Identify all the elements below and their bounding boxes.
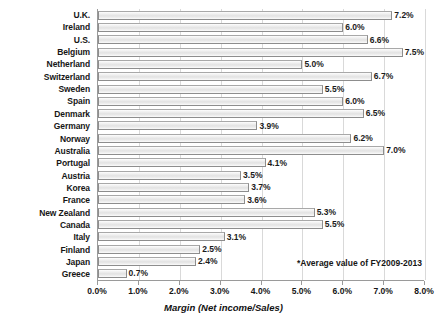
- bar-value-label: 6.0%: [345, 97, 364, 106]
- category-label: Canada: [0, 219, 94, 231]
- bar-series: 7.2%6.0%6.6%7.5%5.0%6.7%5.5%6.0%6.5%3.9%…: [98, 9, 424, 280]
- bar: [98, 48, 403, 57]
- gridline: [425, 9, 426, 280]
- x-tick-label: 2.0%: [169, 287, 188, 296]
- bar-value-label: 6.5%: [366, 109, 385, 118]
- category-label: Japan: [0, 256, 94, 268]
- category-label: Netherland: [0, 58, 94, 70]
- bar-value-label: 6.7%: [374, 72, 393, 81]
- bar: [98, 121, 257, 130]
- bar-value-label: 4.1%: [268, 159, 287, 168]
- bar-value-label: 3.6%: [247, 196, 266, 205]
- x-tick-mark: [97, 281, 98, 285]
- bar-row: 6.0%: [98, 95, 424, 107]
- bar: [98, 134, 351, 143]
- bar-row: 7.2%: [98, 9, 424, 21]
- bar: [98, 60, 302, 69]
- category-label: Denmark: [0, 108, 94, 120]
- x-tick-label: 4.0%: [251, 287, 270, 296]
- bar-row: 7.0%: [98, 144, 424, 156]
- bar: [98, 195, 245, 204]
- category-label: Switzerland: [0, 71, 94, 83]
- bar: [98, 269, 127, 278]
- category-label: U.S.: [0, 34, 94, 46]
- x-tick-label: 5.0%: [292, 287, 311, 296]
- x-axis-tick-labels: 0.0%1.0%2.0%3.0%4.0%5.0%6.0%7.0%8.0%: [97, 287, 424, 301]
- category-label: U.K.: [0, 9, 94, 21]
- category-label: Ireland: [0, 21, 94, 33]
- x-tick-mark: [220, 281, 221, 285]
- x-tick-mark: [261, 281, 262, 285]
- bar: [98, 220, 323, 229]
- x-tick-mark: [138, 281, 139, 285]
- bar-value-label: 6.6%: [370, 36, 389, 45]
- x-tick-mark: [424, 281, 425, 285]
- bar-value-label: 5.0%: [304, 60, 323, 69]
- category-label: Sweden: [0, 83, 94, 95]
- bar-row: 6.0%: [98, 21, 424, 33]
- x-tick-label: 8.0%: [414, 287, 433, 296]
- category-label: Italy: [0, 231, 94, 243]
- bar-value-label: 6.0%: [345, 23, 364, 32]
- x-axis-title: Margin (Net income/Sales): [0, 303, 447, 313]
- x-tick-label: 6.0%: [333, 287, 352, 296]
- category-label: Norway: [0, 133, 94, 145]
- bar: [98, 171, 241, 180]
- bar: [98, 35, 368, 44]
- bar-row: 7.5%: [98, 46, 424, 58]
- bar-value-label: 5.5%: [325, 85, 344, 94]
- bar-value-label: 3.5%: [243, 171, 262, 180]
- bar-row: 5.5%: [98, 218, 424, 230]
- bar-value-label: 7.0%: [386, 146, 405, 155]
- category-label: Australia: [0, 145, 94, 157]
- bar-value-label: 7.2%: [394, 11, 413, 20]
- bar-row: 5.3%: [98, 206, 424, 218]
- bar-chart: U.K.IrelandU.S.BelgiumNetherlandSwitzerl…: [0, 0, 447, 335]
- bar-value-label: 2.5%: [202, 245, 221, 254]
- category-label: Portugal: [0, 157, 94, 169]
- category-label: Finland: [0, 244, 94, 256]
- bar-row: 2.5%: [98, 243, 424, 255]
- bar-row: 3.9%: [98, 120, 424, 132]
- x-tick-mark: [301, 281, 302, 285]
- bar-row: 3.5%: [98, 169, 424, 181]
- bar-row: 6.7%: [98, 71, 424, 83]
- bar: [98, 85, 323, 94]
- bar: [98, 146, 384, 155]
- x-tick-mark: [342, 281, 343, 285]
- bar-value-label: 5.3%: [317, 208, 336, 217]
- bar: [98, 23, 343, 32]
- bar: [98, 97, 343, 106]
- bar-row: 5.0%: [98, 58, 424, 70]
- bar-row: 6.5%: [98, 108, 424, 120]
- bar-value-label: 3.1%: [227, 233, 246, 242]
- category-label: Germany: [0, 120, 94, 132]
- bar-row: 4.1%: [98, 157, 424, 169]
- x-tick-label: 1.0%: [128, 287, 147, 296]
- bar-value-label: 5.5%: [325, 220, 344, 229]
- bar: [98, 208, 315, 217]
- bar-value-label: 2.4%: [198, 257, 217, 266]
- bar-row: 0.7%: [98, 268, 424, 280]
- bar: [98, 158, 266, 167]
- bar-value-label: 0.7%: [129, 269, 148, 278]
- bar-row: 6.2%: [98, 132, 424, 144]
- bar: [98, 183, 249, 192]
- x-tick-mark: [179, 281, 180, 285]
- bar: [98, 11, 392, 20]
- category-label: New Zealand: [0, 207, 94, 219]
- bar: [98, 257, 196, 266]
- bar: [98, 72, 372, 81]
- x-tick-label: 3.0%: [210, 287, 229, 296]
- category-label: Austria: [0, 170, 94, 182]
- chart-footnote: *Average value of FY2009-2013: [297, 259, 422, 268]
- bar-row: 3.7%: [98, 181, 424, 193]
- bar-value-label: 7.5%: [405, 48, 424, 57]
- bar-value-label: 3.7%: [251, 183, 270, 192]
- bar: [98, 109, 364, 118]
- bar-value-label: 3.9%: [259, 122, 278, 131]
- bar: [98, 245, 200, 254]
- category-axis-labels: U.K.IrelandU.S.BelgiumNetherlandSwitzerl…: [0, 9, 94, 281]
- category-label: Spain: [0, 96, 94, 108]
- bar-row: 3.1%: [98, 231, 424, 243]
